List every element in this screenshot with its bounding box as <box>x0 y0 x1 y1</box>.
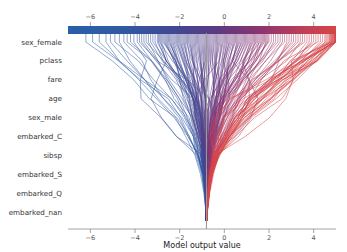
feature-label-embarked_s: embarked_S <box>18 170 63 179</box>
colorbar-tick-label: 4 <box>312 13 316 21</box>
x-tick-label: 2 <box>267 234 271 242</box>
colorbar-tick-label: −4 <box>130 13 140 21</box>
colorbar-tick-label: −2 <box>175 13 185 21</box>
feature-label-embarked_nan: embarked_nan <box>9 208 62 217</box>
colorbar-tick-label: 0 <box>222 13 226 21</box>
feature-label-sibsp: sibsp <box>43 151 62 160</box>
feature-label-pclass: pclass <box>40 56 63 65</box>
feature-label-fare: fare <box>48 75 63 84</box>
feature-label-age: age <box>49 94 63 103</box>
feature-label-sex_male: sex_male <box>28 113 62 122</box>
colorbar-tick-label: 2 <box>267 13 271 21</box>
x-tick-label: −4 <box>130 234 140 242</box>
colorbar-tick-label: −6 <box>86 13 96 21</box>
feature-label-embarked_c: embarked_C <box>17 132 62 141</box>
feature-label-embarked_q: embarked_Q <box>17 189 63 198</box>
feature-label-sex_female: sex_female <box>21 38 62 47</box>
x-tick-label: −6 <box>86 234 96 242</box>
colorbar-gradient <box>68 26 336 34</box>
x-tick-label: 4 <box>312 234 316 242</box>
shap-decision-plot: −6−4−2024 sex_femalepclassfareagesex_mal… <box>0 0 347 252</box>
x-axis-label: Model output value <box>163 241 240 250</box>
